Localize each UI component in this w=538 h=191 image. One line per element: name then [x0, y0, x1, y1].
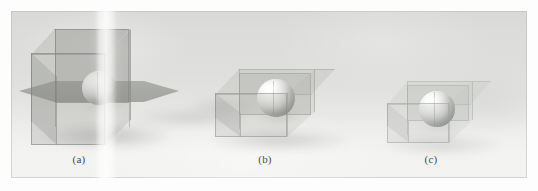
panel-a-interior-edge-left: [55, 29, 56, 127]
panel-c-caption: (c): [411, 153, 451, 165]
panel-a-caption: (a): [59, 153, 99, 165]
panel-c-interior-edge: [407, 81, 408, 135]
figure-root: (a) (b): [0, 0, 538, 191]
panel-a: (a): [11, 11, 191, 178]
photo-plate: (a) (b): [11, 11, 527, 178]
panel-a-interior-edge-right: [129, 29, 130, 127]
panel-a-cube-front-face: [31, 53, 105, 145]
panel-c: (c): [371, 11, 521, 178]
panel-b-caption: (b): [245, 153, 285, 165]
panel-c-box-front-face: [387, 103, 449, 143]
panel-b: (b): [201, 11, 361, 178]
panel-b-interior-edge: [239, 69, 240, 129]
panel-b-box-front-face: [215, 93, 287, 137]
